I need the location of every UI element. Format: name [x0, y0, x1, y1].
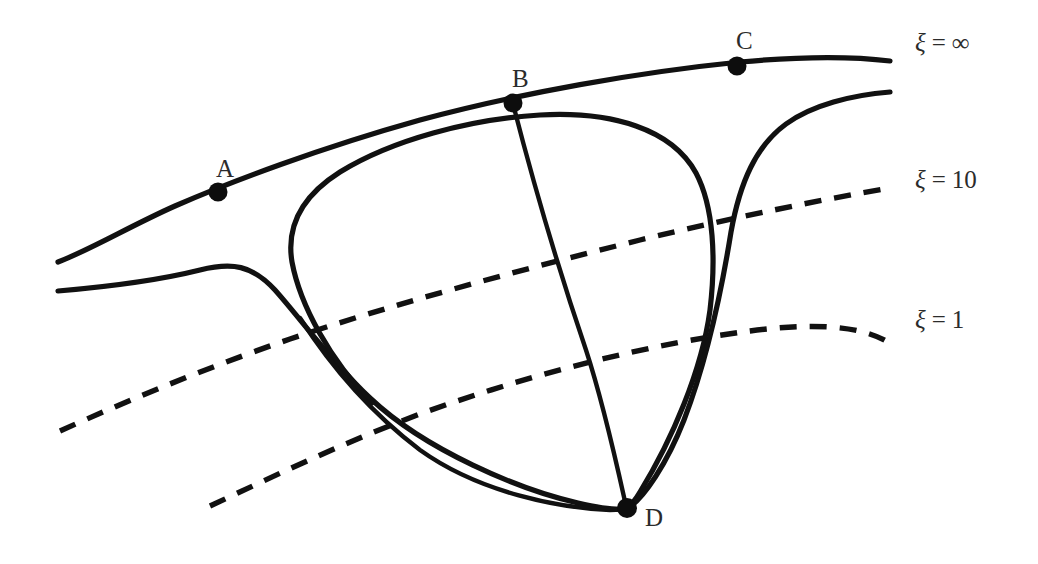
xi-symbol-10: ξ [915, 166, 926, 193]
node-dot-A [209, 183, 228, 202]
equals-sign-infinity: = [932, 29, 946, 56]
curve-left-horizon-inner [300, 318, 626, 510]
node-label-A: A [216, 156, 234, 181]
level-label-xi-1: ξ=1 [915, 307, 964, 332]
curve-left-horizon-branch [58, 266, 625, 509]
node-label-D: D [645, 505, 663, 530]
node-label-B: B [512, 66, 529, 91]
node-dot-C [728, 57, 747, 76]
node-dot-B [504, 94, 523, 113]
xi-value-1: 1 [952, 306, 965, 333]
xi-symbol-1: ξ [915, 306, 926, 333]
curve-dome-outer [291, 114, 713, 509]
xi-symbol-infinity: ξ [915, 29, 926, 56]
xi-value-10: 10 [952, 166, 977, 193]
node-dot-D [617, 498, 637, 518]
equals-sign-1: = [932, 306, 946, 333]
node-label-C: C [736, 28, 753, 53]
level-label-xi-10: ξ=10 [915, 167, 977, 192]
xi-value-infinity: ∞ [952, 29, 970, 56]
curve-xi-infinity-boundary [58, 58, 890, 262]
curve-b-to-d-geodesic [513, 104, 626, 506]
curve-xi-10-surface [60, 188, 890, 431]
level-label-xi-infinity: ξ=∞ [915, 30, 970, 55]
figure-root: A B C D ξ=∞ ξ=10 ξ=1 [0, 0, 1038, 564]
equals-sign-10: = [932, 166, 946, 193]
curve-xi-1-surface [210, 326, 886, 506]
